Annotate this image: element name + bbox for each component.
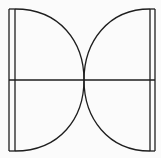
semicircles-diagram bbox=[0, 0, 161, 158]
background bbox=[0, 0, 161, 158]
